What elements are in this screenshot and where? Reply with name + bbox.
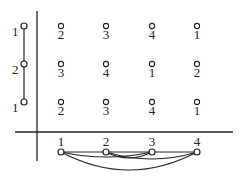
diagram-canvas: 121 234134122341 1234 bbox=[0, 0, 246, 177]
grid-cell-value: 1 bbox=[194, 27, 201, 42]
bottom-node-label: 3 bbox=[149, 134, 156, 149]
left-node-circle bbox=[21, 99, 27, 105]
grid-cell-value: 4 bbox=[149, 27, 156, 42]
grid-cell-value: 2 bbox=[58, 103, 65, 118]
grid-cell-value: 2 bbox=[58, 27, 65, 42]
grid-cell-value: 4 bbox=[149, 103, 156, 118]
bottom-node-label: 4 bbox=[194, 134, 201, 149]
grid-cell-value: 3 bbox=[103, 27, 110, 42]
bottom-graph-edges bbox=[61, 152, 197, 170]
grid-cells: 234134122341 bbox=[58, 23, 201, 118]
left-node-label: 1 bbox=[12, 24, 19, 39]
bottom-node-circle bbox=[103, 149, 109, 155]
grid-cell-value: 1 bbox=[194, 103, 201, 118]
grid-cell-value: 4 bbox=[103, 65, 110, 80]
left-node-label: 1 bbox=[12, 100, 19, 115]
left-node-label: 2 bbox=[12, 62, 19, 77]
edge-1-4-arc bbox=[61, 152, 197, 170]
bottom-node-circle bbox=[194, 149, 200, 155]
grid-cell-value: 2 bbox=[194, 65, 201, 80]
grid-cell-value: 3 bbox=[103, 103, 110, 118]
bottom-node-label: 2 bbox=[103, 134, 110, 149]
bottom-node-label: 1 bbox=[58, 134, 65, 149]
left-node-circle bbox=[21, 61, 27, 67]
left-column-nodes: 121 bbox=[12, 23, 27, 115]
bottom-node-circle bbox=[58, 149, 64, 155]
grid-cell-value: 1 bbox=[149, 65, 156, 80]
bottom-node-circle bbox=[149, 149, 155, 155]
left-node-circle bbox=[21, 23, 27, 29]
grid-cell-value: 3 bbox=[58, 65, 65, 80]
